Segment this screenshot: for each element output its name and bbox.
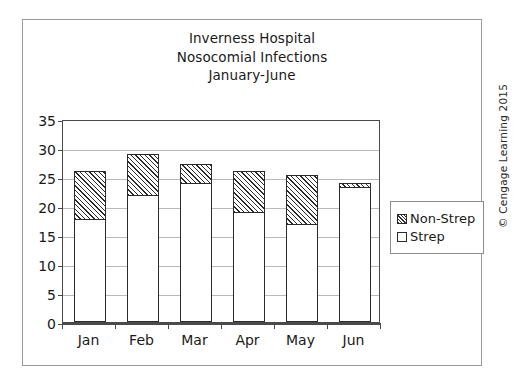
bar-segment-strep <box>74 219 106 322</box>
x-axis-tick <box>62 323 63 329</box>
gridline <box>63 179 379 180</box>
y-axis-tick <box>58 295 63 296</box>
y-axis-tick <box>58 179 63 180</box>
bar-segment-strep <box>233 211 265 322</box>
bar-segment-non-strep <box>127 154 159 196</box>
legend-item-non-strep: Non-Strep <box>397 211 475 226</box>
x-axis-label: Feb <box>129 332 154 348</box>
gridline <box>63 266 379 267</box>
y-axis-tick <box>58 121 63 122</box>
y-axis-tick <box>58 150 63 151</box>
y-axis-label: 10 <box>38 258 56 274</box>
y-axis-tick <box>58 266 63 267</box>
bar-group <box>339 119 371 322</box>
chart-title-line-3: January-June <box>23 66 481 85</box>
legend-swatch-non-strep-icon <box>397 214 407 224</box>
x-axis-label: Apr <box>235 332 259 348</box>
bar-group <box>74 119 106 322</box>
gridline <box>63 295 379 296</box>
y-axis-label: 20 <box>38 200 56 216</box>
bar-segment-strep <box>127 194 159 322</box>
x-axis-tick <box>380 323 381 329</box>
bar-segment-strep <box>180 183 212 322</box>
y-axis-tick <box>58 208 63 209</box>
plot-area: 05101520253035 <box>62 120 380 323</box>
chart-title: Inverness Hospital Nosocomial Infections… <box>23 29 481 85</box>
copyright-credit: © Cengage Learning 2015 <box>497 84 509 228</box>
x-axis-tick <box>327 323 328 329</box>
x-axis-label: Mar <box>181 332 207 348</box>
bar-group <box>127 119 159 322</box>
legend-label-non-strep: Non-Strep <box>410 211 475 226</box>
y-axis-label: 5 <box>47 287 56 303</box>
gridline <box>63 237 379 238</box>
x-axis-tick <box>221 323 222 329</box>
y-axis-tick <box>58 237 63 238</box>
chart-title-line-2: Nosocomial Infections <box>23 48 481 67</box>
x-axis-label: May <box>286 332 315 348</box>
chart-legend: Non-Strep Strep <box>390 201 484 254</box>
x-axis-tick <box>115 323 116 329</box>
y-axis-label: 35 <box>38 113 56 129</box>
gridline <box>63 208 379 209</box>
bar-segment-non-strep <box>286 175 318 225</box>
x-axis-label: Jan <box>78 332 100 348</box>
legend-swatch-strep-icon <box>397 232 407 242</box>
bar-group <box>286 119 318 322</box>
y-axis-label: 15 <box>38 229 56 245</box>
y-axis-label: 25 <box>38 171 56 187</box>
bar-group <box>180 119 212 322</box>
legend-item-strep: Strep <box>397 229 475 244</box>
bar-segment-non-strep <box>339 183 371 188</box>
bar-segment-strep <box>286 223 318 322</box>
bar-segment-non-strep <box>74 171 106 220</box>
bar-group <box>233 119 265 322</box>
gridline <box>63 150 379 151</box>
chart-title-line-1: Inverness Hospital <box>23 29 481 48</box>
y-axis-label: 0 <box>47 316 56 332</box>
bar-segment-strep <box>339 187 371 322</box>
bar-segment-non-strep <box>233 171 265 213</box>
x-axis-tick <box>168 323 169 329</box>
x-axis-tick <box>274 323 275 329</box>
legend-label-strep: Strep <box>410 229 445 244</box>
x-axis-label: Jun <box>343 332 365 348</box>
chart-frame: Inverness Hospital Nosocomial Infections… <box>22 19 482 366</box>
bar-segment-non-strep <box>180 164 212 185</box>
y-axis-label: 30 <box>38 142 56 158</box>
